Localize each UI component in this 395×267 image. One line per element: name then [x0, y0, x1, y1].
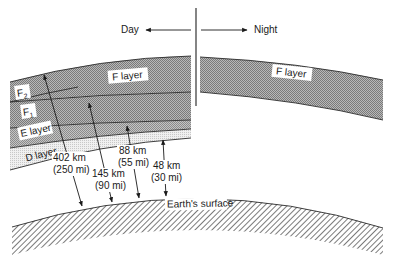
height-55mi-label: (55 mi): [118, 157, 149, 168]
earth-surface-label: Earth's surface: [167, 197, 234, 209]
height-48km-label: 48 km: [153, 160, 180, 171]
day-label: Day: [121, 24, 139, 35]
ionosphere-diagram: Day Night F layer F2 F1 E layer D layer …: [0, 0, 395, 267]
night-label: Night: [254, 24, 278, 35]
height-145km-label: 145 km: [92, 168, 125, 179]
height-90mi-label: (90 mi): [95, 180, 126, 191]
height-30mi-label: (30 mi): [151, 172, 182, 183]
height-250mi-label: (250 mi): [53, 164, 90, 175]
height-402km-label: 402 km: [53, 152, 86, 163]
height-labels: 402 km (250 mi) 145 km (90 mi) 88 km (55…: [52, 145, 182, 192]
height-88km-label: 88 km: [119, 145, 146, 156]
